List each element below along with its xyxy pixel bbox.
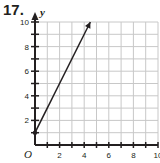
tick-labels: 246810246810 — [20, 18, 160, 160]
y-tick-label: 4 — [25, 92, 30, 101]
y-axis-arrow-icon — [32, 12, 39, 20]
y-axis-label: y — [38, 6, 45, 18]
x-tick-label: 10 — [154, 151, 160, 160]
x-tick-label: 8 — [131, 151, 136, 160]
data-line — [35, 22, 90, 133]
origin-label: O — [24, 148, 32, 160]
y-tick-label: 6 — [25, 67, 30, 76]
plotted-line — [33, 22, 91, 135]
axis-ticks — [31, 22, 158, 148]
coordinate-graph: 246810246810 y O — [0, 0, 160, 163]
y-tick-label: 8 — [25, 43, 30, 52]
y-tick-label: 2 — [25, 116, 30, 125]
start-point — [33, 131, 37, 135]
grid-lines — [35, 22, 158, 145]
y-tick-label: 10 — [20, 18, 29, 27]
x-tick-label: 6 — [107, 151, 112, 160]
x-tick-label: 4 — [82, 151, 87, 160]
axes — [32, 12, 159, 145]
x-tick-label: 2 — [57, 151, 62, 160]
